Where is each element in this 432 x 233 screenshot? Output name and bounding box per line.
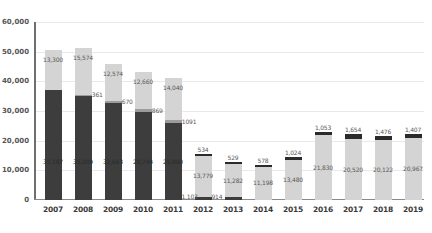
bar-segment-bottom-segment-2010[interactable]: 29,744 [135,112,152,200]
bar-segment-body-segment-2014[interactable]: 11,198 [255,167,272,200]
x-axis-tick-label-2007: 2007 [38,205,68,214]
bar-segment-body-segment-2009[interactable]: 12,574 [105,64,122,101]
bar-value-label: 13,779 [193,172,213,179]
bar-column-2017[interactable]: 1,65420,520 [345,134,362,200]
x-axis-tick-label-2017: 2017 [338,205,368,214]
bar-value-label: 29,744 [133,158,153,165]
bar-segment-body-segment-2011[interactable]: 14,040 [165,78,182,120]
bar-value-label: 32,663 [103,158,123,165]
bar-segment-body-segment-2010[interactable]: 12,660 [135,72,152,110]
bar-segment-body-segment-2017[interactable]: 20,520 [345,139,362,200]
y-axis-tick-label: 60,000 [2,18,29,26]
y-axis-tick-labels: 60,00050,00040,00030,00020,00010,0000 [0,22,32,200]
bar-segment-bottom-segment-2012[interactable]: 1,103 [195,197,212,200]
bar-value-label: 914 [212,193,223,200]
bar-value-label: 578 [258,157,269,164]
bar-segment-body-segment-2016[interactable]: 21,830 [315,135,332,200]
bar-value-label: 25,890 [163,158,183,165]
bar-segment-body-segment-2008[interactable]: 15,574 [75,48,92,94]
bar-column-2018[interactable]: 1,47620,122 [375,136,392,200]
x-axis-tick-label-2008: 2008 [68,205,98,214]
bar-segment-bottom-segment-2011[interactable]: 25,890 [165,123,182,200]
bar-column-2019[interactable]: 1,40720,967 [405,134,422,200]
bar-segment-body-segment-2015[interactable]: 13,480 [285,160,302,200]
bar-value-label: 1,053 [315,124,331,131]
y-axis-tick-label: 40,000 [2,77,29,85]
bar-column-2014[interactable]: 57811,198 [255,165,272,200]
y-axis-tick-label: 20,000 [2,137,29,145]
bar-segment-body-segment-2019[interactable]: 20,967 [405,138,422,200]
bar-segment-bottom-segment-2008[interactable]: 35,009 [75,96,92,200]
bar-segment-bottom-segment-2007[interactable]: 37,187 [45,90,62,200]
bar-value-label: 869 [152,107,163,114]
bar-column-2015[interactable]: 1,02413,480 [285,157,302,200]
bar-value-label: 20,122 [373,166,393,173]
bar-segment-body-segment-2018[interactable]: 20,122 [375,140,392,200]
stacked-bar-chart: 60,00050,00040,00030,00020,00010,0000 13… [0,0,432,233]
bar-value-label: 13,480 [283,176,303,183]
bar-value-label: 15,574 [73,54,93,61]
bar-value-label: 21,830 [313,164,333,171]
bar-value-label: 670 [122,98,133,105]
bar-column-2012[interactable]: 53413,7791,103 [195,154,212,200]
bar-value-label: 11,198 [253,179,273,186]
x-axis-tick-label-2015: 2015 [278,205,308,214]
x-axis-tick-label-2016: 2016 [308,205,338,214]
x-axis-tick-label-2018: 2018 [368,205,398,214]
bar-value-label: 1,476 [375,128,391,135]
bar-column-2016[interactable]: 1,05321,830 [315,132,332,200]
bar-column-2010[interactable]: 12,66086929,744 [135,72,152,200]
bar-value-label: 14,040 [163,84,183,91]
bar-value-label: 12,574 [103,70,123,77]
bar-value-label: 1091 [182,118,196,125]
plot-area: 13,30037,18715,57436135,00912,57467032,6… [34,22,424,200]
bar-column-2013[interactable]: 52911,282914 [225,162,242,200]
y-axis-tick-label: 10,000 [2,166,29,174]
x-axis-tick-label-2009: 2009 [98,205,128,214]
bar-value-label: 534 [198,146,209,153]
bar-column-2009[interactable]: 12,57467032,663 [105,64,122,200]
bar-value-label: 1,103 [182,193,198,200]
bar-value-label: 35,009 [73,158,93,165]
x-axis-tick-label-2013: 2013 [218,205,248,214]
bar-value-label: 361 [92,91,103,98]
bar-value-label: 529 [228,154,239,161]
bar-value-label: 1,654 [345,126,361,133]
bar-value-label: 1,407 [405,126,421,133]
bar-value-label: 37,187 [43,158,63,165]
bar-segment-body-segment-2012[interactable]: 13,779 [195,156,212,197]
x-axis-tick-label-2014: 2014 [248,205,278,214]
x-axis-tick-labels: 2007200820092010201120122013201420152016… [34,205,424,221]
y-axis-tick-label: 50,000 [2,48,29,56]
bar-segment-body-segment-2007[interactable]: 13,300 [45,50,62,89]
bar-value-label: 13,300 [43,56,63,63]
bar-column-2007[interactable]: 13,30037,187 [45,50,62,200]
y-axis-tick-label: 0 [24,196,29,204]
bar-value-label: 12,660 [133,78,153,85]
bar-column-2011[interactable]: 14,040109125,890 [165,78,182,200]
bar-value-label: 20,967 [403,165,423,172]
bar-series-container: 13,30037,18715,57436135,00912,57467032,6… [34,22,424,200]
bar-column-2008[interactable]: 15,57436135,009 [75,48,92,200]
x-axis-tick-label-2019: 2019 [398,205,428,214]
bar-value-label: 1,024 [285,149,301,156]
bar-segment-bottom-segment-2009[interactable]: 32,663 [105,103,122,200]
y-axis-tick-label: 30,000 [2,107,29,115]
bar-value-label: 20,520 [343,166,363,173]
x-axis-tick-label-2010: 2010 [128,205,158,214]
x-axis-tick-label-2011: 2011 [158,205,188,214]
bar-segment-bottom-segment-2013[interactable]: 914 [225,197,242,200]
bar-segment-body-segment-2013[interactable]: 11,282 [225,164,242,197]
bar-value-label: 11,282 [223,177,243,184]
x-axis-tick-label-2012: 2012 [188,205,218,214]
